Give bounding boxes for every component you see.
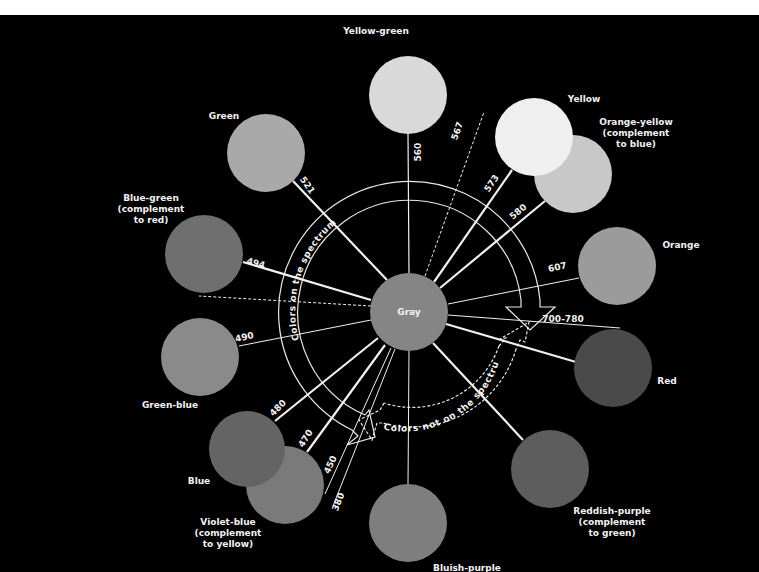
- color-label-blue: Blue: [188, 476, 210, 486]
- color-circle-blue-green: [165, 215, 243, 293]
- color-circle-bluish-purple: [369, 484, 447, 562]
- color-label-yellow-green: Yellow-green: [342, 26, 409, 36]
- color-label-line: Green-blue: [142, 400, 198, 410]
- color-label-line: Violet-blue: [200, 517, 255, 527]
- color-circle-yellow: [495, 98, 573, 176]
- color-label-line: Reddish-purple: [573, 506, 650, 516]
- color-circle-reddish-purple: [511, 430, 589, 508]
- color-label-line: (complement: [579, 517, 647, 527]
- color-label-line: Yellow: [567, 94, 600, 104]
- color-label-line: Blue-green: [123, 193, 179, 203]
- color-circle-orange: [578, 227, 656, 305]
- color-label-violet-blue: Violet-blue(complementto yellow): [195, 517, 263, 549]
- color-label-orange: Orange: [662, 240, 699, 250]
- color-label-red: Red: [657, 376, 676, 386]
- color-label-line: Orange-yellow: [599, 117, 673, 127]
- color-circle-green-blue: [161, 318, 239, 396]
- color-circle-red: [574, 329, 652, 407]
- color-label-line: to yellow): [203, 539, 253, 549]
- color-label-yellow: Yellow: [567, 94, 600, 104]
- color-circle-yellow-green: [369, 56, 447, 134]
- color-label-line: to blue): [616, 139, 656, 149]
- color-label-line: Bluish-purple: [433, 563, 501, 572]
- color-label-line: Yellow-green: [342, 26, 409, 36]
- color-label-line: Green: [209, 111, 239, 121]
- center-label: Gray: [397, 307, 421, 317]
- color-label-bluish-purple: Bluish-purple: [433, 563, 501, 572]
- wavelength-label-560: 560: [413, 143, 423, 162]
- color-label-line: (complement: [118, 204, 186, 214]
- color-label-line: (complement: [603, 128, 671, 138]
- wavelength-label-700-780: 700-780: [542, 314, 583, 324]
- color-label-green: Green: [209, 111, 239, 121]
- color-label-line: Orange: [662, 240, 699, 250]
- color-circle-diagram: Yellow-greenYellowOrange-yellow(compleme…: [0, 0, 759, 572]
- color-label-line: to red): [134, 215, 169, 225]
- color-label-green-blue: Green-blue: [142, 400, 198, 410]
- color-label-line: (complement: [195, 528, 263, 538]
- color-circle-green: [227, 114, 305, 192]
- color-label-line: Blue: [188, 476, 210, 486]
- color-label-line: Red: [657, 376, 676, 386]
- color-label-line: to green): [588, 528, 635, 538]
- color-circle-blue: [209, 411, 285, 487]
